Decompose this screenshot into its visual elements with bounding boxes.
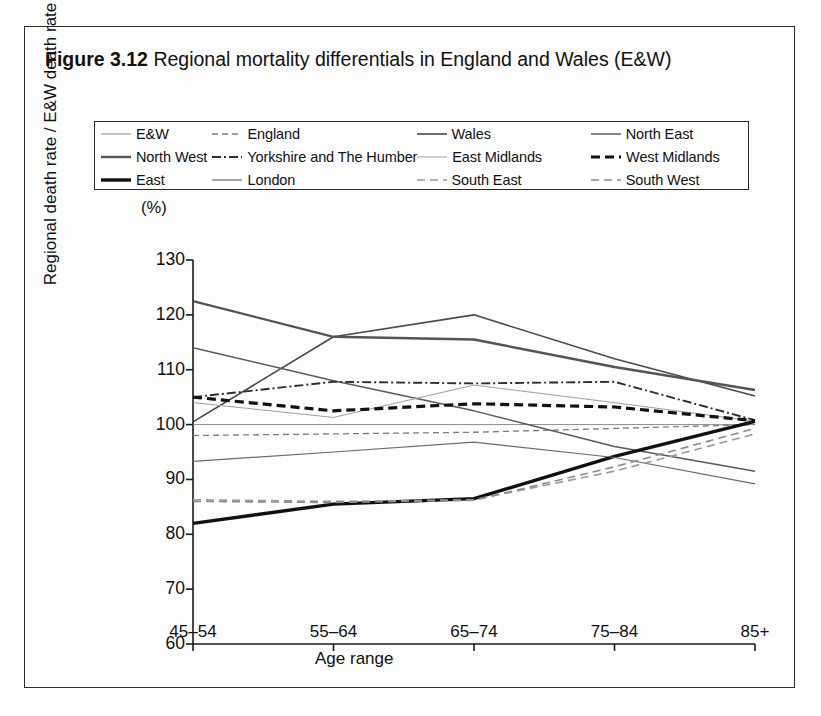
x-tick-label: 45–54 (169, 622, 216, 642)
y-axis-title: Regional death rate / E&W death rate (41, 0, 61, 294)
legend-label: North West (133, 149, 207, 165)
legend-row: EastLondonSouth EastSouth West (95, 168, 748, 191)
legend-line-swatch-icon (210, 150, 244, 164)
legend-label: E&W (133, 126, 169, 142)
legend-label: West Midlands (623, 149, 720, 165)
legend-row: North WestYorkshire and The HumberEast M… (95, 145, 748, 168)
legend-item-london[interactable]: London (210, 168, 414, 191)
legend-line-swatch-icon (415, 173, 449, 187)
x-tick-label: 75–84 (591, 622, 638, 642)
legend-item-england[interactable]: England (210, 122, 414, 145)
series-line-west-midlands (193, 397, 755, 421)
figure-page: Figure 3.12 Regional mortality different… (0, 0, 821, 716)
legend-label: North East (623, 126, 694, 142)
legend-label: Yorkshire and The Humber (244, 149, 417, 165)
series-line-london (193, 442, 755, 484)
legend-label: Wales (449, 126, 491, 142)
legend-label: South West (623, 172, 700, 188)
y-tick-label: 90 (141, 468, 185, 489)
legend-line-swatch-icon (415, 127, 449, 141)
x-tick-label: 65–74 (450, 622, 497, 642)
x-tick-label: 55–64 (310, 622, 357, 642)
y-tick-label: 110 (141, 359, 185, 380)
figure-caption: Regional mortality differentials in Engl… (153, 48, 671, 70)
chart-canvas (45, 202, 775, 672)
legend-line-swatch-icon (589, 127, 623, 141)
chart-legend: E&WEnglandWalesNorth EastNorth WestYorks… (94, 121, 749, 190)
legend-label: East Midlands (449, 149, 542, 165)
series-line-north-east (193, 348, 755, 471)
chart-plot-area: Regional death rate / E&W death rate (%)… (45, 202, 775, 672)
y-tick-label: 70 (141, 578, 185, 599)
figure-card: Figure 3.12 Regional mortality different… (24, 26, 795, 688)
legend-line-swatch-icon (589, 150, 623, 164)
legend-line-swatch-icon (99, 127, 133, 141)
legend-line-swatch-icon (415, 150, 449, 164)
legend-item-east-midlands[interactable]: East Midlands (415, 145, 589, 168)
legend-label: London (244, 172, 295, 188)
legend-line-swatch-icon (99, 150, 133, 164)
legend-row: E&WEnglandWalesNorth East (95, 122, 748, 145)
legend-label: East (133, 172, 165, 188)
legend-item-north-east[interactable]: North East (589, 122, 748, 145)
legend-item-yorkshire-and-the-humber[interactable]: Yorkshire and The Humber (210, 145, 415, 168)
legend-item-south-east[interactable]: South East (415, 168, 589, 191)
legend-item-e-w[interactable]: E&W (99, 122, 210, 145)
legend-line-swatch-icon (210, 127, 244, 141)
y-tick-label: 100 (141, 414, 185, 435)
x-axis-title: Age range (315, 649, 393, 669)
legend-item-wales[interactable]: Wales (415, 122, 589, 145)
legend-item-east[interactable]: East (99, 168, 210, 191)
y-tick-label: 130 (141, 249, 185, 270)
legend-line-swatch-icon (589, 173, 623, 187)
y-tick-label: 80 (141, 523, 185, 544)
legend-line-swatch-icon (210, 173, 244, 187)
legend-item-south-west[interactable]: South West (589, 168, 748, 191)
series-line-east (193, 421, 755, 523)
series-line-south-west (193, 428, 755, 502)
y-tick-label: 120 (141, 304, 185, 325)
legend-item-north-west[interactable]: North West (99, 145, 210, 168)
legend-item-west-midlands[interactable]: West Midlands (589, 145, 748, 168)
figure-title: Figure 3.12 Regional mortality different… (45, 45, 765, 73)
y-axis-unit: (%) (141, 198, 167, 217)
legend-label: England (244, 126, 300, 142)
x-tick-label: 85+ (741, 622, 770, 642)
legend-label: South East (449, 172, 522, 188)
series-line-england (193, 425, 755, 436)
series-line-yorkshire-and-the-humber (193, 382, 755, 420)
legend-line-swatch-icon (99, 173, 133, 187)
